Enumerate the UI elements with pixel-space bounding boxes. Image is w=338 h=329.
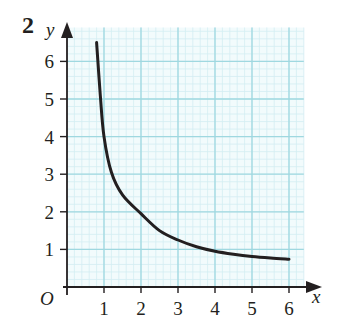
line-chart: 123456123456 x y O <box>0 0 338 329</box>
y-tick-label: 6 <box>45 51 55 72</box>
y-tick-label: 2 <box>45 202 55 223</box>
x-tick-label: 4 <box>210 298 220 319</box>
x-tick-label: 5 <box>247 298 257 319</box>
y-axis-label: y <box>44 19 55 40</box>
y-tick-label: 5 <box>45 89 55 110</box>
x-tick-label: 1 <box>99 298 109 319</box>
y-tick-label: 4 <box>45 127 55 148</box>
x-tick-label: 3 <box>173 298 183 319</box>
x-tick-label: 6 <box>284 298 294 319</box>
y-tick-label: 3 <box>45 164 55 185</box>
x-axis-label: x <box>311 286 321 307</box>
y-tick-label: 1 <box>45 239 55 260</box>
x-tick-label: 2 <box>136 298 146 319</box>
origin-label: O <box>40 288 54 309</box>
grid <box>67 28 304 287</box>
